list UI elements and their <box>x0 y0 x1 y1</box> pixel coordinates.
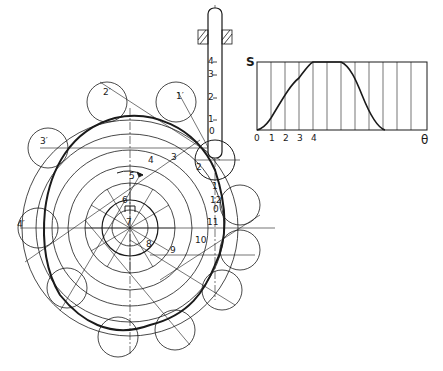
cam-label-4: 4 <box>148 156 154 165</box>
follower-scale-3: 3 <box>208 70 214 79</box>
theta-axis-label: θ <box>421 134 428 146</box>
primed-label-4: 4′ <box>17 220 25 229</box>
cam-diagram <box>0 0 443 371</box>
dd-tick-3: 3 <box>297 134 303 143</box>
dd-tick-4: 4 <box>311 134 317 143</box>
cam-label-8: 8 <box>146 240 152 249</box>
follower <box>195 8 240 180</box>
cam-label-10: 10 <box>195 236 206 245</box>
primed-label-1: 1′ <box>176 92 184 101</box>
primed-label-3: 3′ <box>40 137 48 146</box>
cam-label-11: 11 <box>207 218 218 227</box>
cam-label-9: 9 <box>170 246 176 255</box>
cam-label-1: 1 <box>212 182 218 191</box>
cam-label-2: 2 <box>196 163 202 172</box>
cam-label-7: 7 <box>126 218 132 227</box>
follower-scale-1: 1 <box>208 115 214 124</box>
follower-scale-2: 2 <box>208 93 214 102</box>
follower-scale-4: 4 <box>208 57 214 66</box>
s-axis-label: S <box>246 56 255 68</box>
cam-label-6: 6 <box>122 196 128 205</box>
center-lines <box>20 5 275 355</box>
dd-tick-1: 1 <box>269 134 275 143</box>
displacement-curve <box>257 62 385 130</box>
cam-label-3: 3 <box>171 153 177 162</box>
dd-tick-0: 0 <box>254 134 260 143</box>
follower-scale-0: 0 <box>209 127 215 136</box>
dd-tick-2: 2 <box>283 134 289 143</box>
cam-label-5: 5 <box>129 172 135 181</box>
cam-label-0: 0 <box>213 205 219 214</box>
displacement-diagram <box>257 62 427 130</box>
primed-label-2: 2′ <box>103 88 111 97</box>
